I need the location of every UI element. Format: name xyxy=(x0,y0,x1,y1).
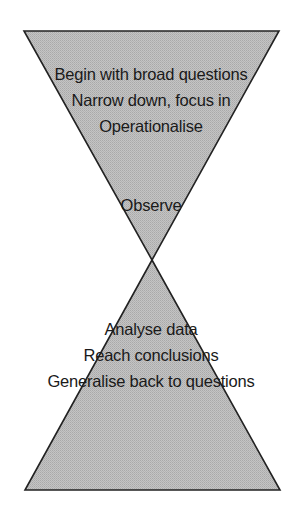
label-begin-with-broad-questions: Begin with broad questions xyxy=(0,61,302,87)
label-narrow-down-focus-in: Narrow down, focus in xyxy=(0,87,302,113)
label-observe: Observe xyxy=(0,192,302,218)
top-triangle-labels: Begin with broad questions Narrow down, … xyxy=(0,61,302,139)
label-operationalise: Operationalise xyxy=(0,113,302,139)
label-generalise-back-to-questions: Generalise back to questions xyxy=(0,368,302,394)
apex-label-container: Observe xyxy=(0,192,302,218)
label-analyse-data: Analyse data xyxy=(0,316,302,342)
label-reach-conclusions: Reach conclusions xyxy=(0,342,302,368)
bottom-triangle-labels: Analyse data Reach conclusions Generalis… xyxy=(0,316,302,394)
